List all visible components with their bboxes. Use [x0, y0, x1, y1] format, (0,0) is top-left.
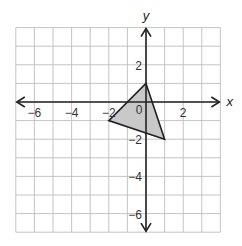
x-axis-label: x	[225, 94, 233, 109]
x-tick-label: −6	[28, 106, 42, 120]
origin-label: 0	[136, 103, 143, 117]
axes	[17, 29, 220, 232]
x-tick-label: −4	[65, 106, 79, 120]
y-axis-label: y	[142, 8, 151, 23]
y-tick-label: −2	[128, 133, 142, 147]
y-tick-label: −4	[128, 170, 142, 184]
x-tick-label: −2	[102, 106, 116, 120]
y-tick-label: −6	[128, 208, 142, 222]
grid-lines	[16, 28, 221, 233]
y-tick-label: 2	[135, 59, 142, 73]
x-tick-label: 2	[180, 106, 187, 120]
coordinate-plane: −6−4−222−2−4−60xy	[0, 0, 242, 246]
